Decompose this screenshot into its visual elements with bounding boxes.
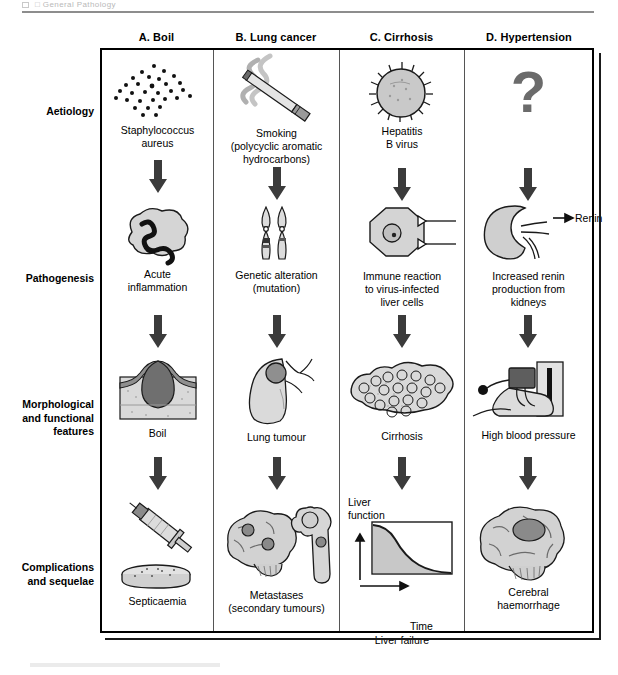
running-head-text: □ General Pathology [35, 0, 116, 9]
caption-cirrhosis-complications: Liver failure [340, 634, 464, 647]
cell-lung-complications: Metastases (secondary tumours) [214, 500, 339, 615]
arrow-hypertension-1 [518, 168, 538, 202]
arrow-lung-2 [267, 315, 287, 349]
arrow-boil-1 [148, 160, 168, 194]
graph-y-axis-label: Liver function [348, 496, 385, 521]
figure-page: □ General Pathology A. Boil B. Lung canc… [0, 0, 618, 675]
caption-lung-aetiology: Smoking (polycyclic aromatic hydrocarbon… [214, 127, 339, 166]
caption-boil-complications: Septicaemia [102, 595, 213, 608]
arrow-cirrhosis-1 [392, 168, 412, 202]
lung-tumour-icon [214, 355, 339, 425]
caption-lung-complications: Metastases (secondary tumours) [214, 589, 339, 615]
arrow-cirrhosis-2 [392, 315, 412, 349]
caption-hypertension-morphology: High blood pressure [465, 429, 592, 442]
caption-hypertension-pathogenesis: Increased renin production from kidneys [465, 270, 592, 309]
cell-boil-morphology: Boil [102, 355, 213, 440]
nodular-liver-icon [340, 358, 464, 424]
cell-hypertension-complications: Cerebral haemorrhage [465, 500, 592, 612]
chromosome-pair-icon [214, 205, 339, 263]
cell-hypertension-aetiology: ? [465, 56, 592, 128]
kidney-renin-icon: Renin [465, 202, 592, 264]
arrow-boil-3 [148, 457, 168, 491]
column-header-boil: A. Boil [100, 31, 213, 43]
hepatocyte-lymphocyte-icon [340, 202, 464, 264]
syringe-petri-dish-icon [102, 498, 213, 593]
footer-rule [30, 663, 220, 667]
virus-particle-icon [340, 56, 464, 122]
page-marker-icon [22, 2, 29, 8]
caption-cirrhosis-morphology: Cirrhosis [340, 430, 464, 443]
brain-bone-metastases-icon [214, 500, 339, 588]
row-label-complications: Complications and sequelae [6, 561, 94, 588]
row-label-pathogenesis: Pathogenesis [6, 272, 94, 286]
caption-lung-morphology: Lung tumour [214, 431, 339, 444]
arrow-hypertension-3 [518, 457, 538, 491]
neutrophil-icon [102, 202, 213, 262]
cigarette-smoke-icon [214, 54, 339, 126]
cell-boil-complications: Septicaemia [102, 498, 213, 608]
caption-cirrhosis-pathogenesis: Immune reaction to virus-infected liver … [340, 270, 464, 309]
liver-function-graph-icon [340, 522, 464, 608]
header-rule [22, 11, 594, 13]
running-head: □ General Pathology [22, 0, 282, 9]
cell-lung-morphology: Lung tumour [214, 355, 339, 444]
cell-boil-pathogenesis: Acute inflammation [102, 202, 213, 294]
column-header-lung-cancer: B. Lung cancer [213, 31, 339, 43]
arrow-lung-1 [267, 167, 287, 201]
renin-annotation: Renin [575, 212, 603, 224]
arrow-boil-2 [148, 315, 168, 349]
column-header-cirrhosis: C. Cirrhosis [339, 31, 464, 43]
caption-boil-morphology: Boil [102, 427, 213, 440]
caption-boil-aetiology: Staphylococcus aureus [102, 124, 213, 150]
arrow-hypertension-2 [518, 315, 538, 349]
brain-haemorrhage-icon [465, 500, 592, 584]
caption-hypertension-complications: Cerebral haemorrhage [465, 586, 592, 612]
caption-cirrhosis-aetiology: Hepatitis B virus [340, 125, 464, 151]
figure-frame: Staphylococcus aureus Acute inflammation [100, 48, 594, 633]
cell-hypertension-pathogenesis: Renin Increased renin production from ki… [465, 202, 592, 309]
column-header-hypertension: D. Hypertension [464, 31, 594, 43]
cell-lung-pathogenesis: Genetic alteration (mutation) [214, 205, 339, 295]
caption-boil-pathogenesis: Acute inflammation [102, 268, 213, 294]
cell-lung-aetiology: Smoking (polycyclic aromatic hydrocarbon… [214, 54, 339, 166]
sphygmomanometer-icon [465, 358, 592, 424]
cell-cirrhosis-aetiology: Hepatitis B virus [340, 56, 464, 151]
cell-hypertension-morphology: High blood pressure [465, 358, 592, 442]
cell-boil-aetiology: Staphylococcus aureus [102, 60, 213, 150]
arrow-cirrhosis-3 [392, 457, 412, 491]
graph-x-axis-label: Time [410, 620, 433, 632]
row-label-aetiology: Aetiology [6, 105, 94, 119]
caption-lung-pathogenesis: Genetic alteration (mutation) [214, 269, 339, 295]
bacteria-dots-icon [102, 60, 213, 122]
question-mark-icon: ? [465, 56, 592, 128]
skin-boil-section-icon [102, 355, 213, 423]
cell-cirrhosis-complications: Liver function Time Liver failure [340, 496, 464, 647]
cell-cirrhosis-morphology: Cirrhosis [340, 358, 464, 443]
cell-cirrhosis-pathogenesis: Immune reaction to virus-infected liver … [340, 202, 464, 309]
arrow-lung-3 [267, 457, 287, 491]
row-label-morphological: Morphological and functional features [6, 398, 94, 439]
